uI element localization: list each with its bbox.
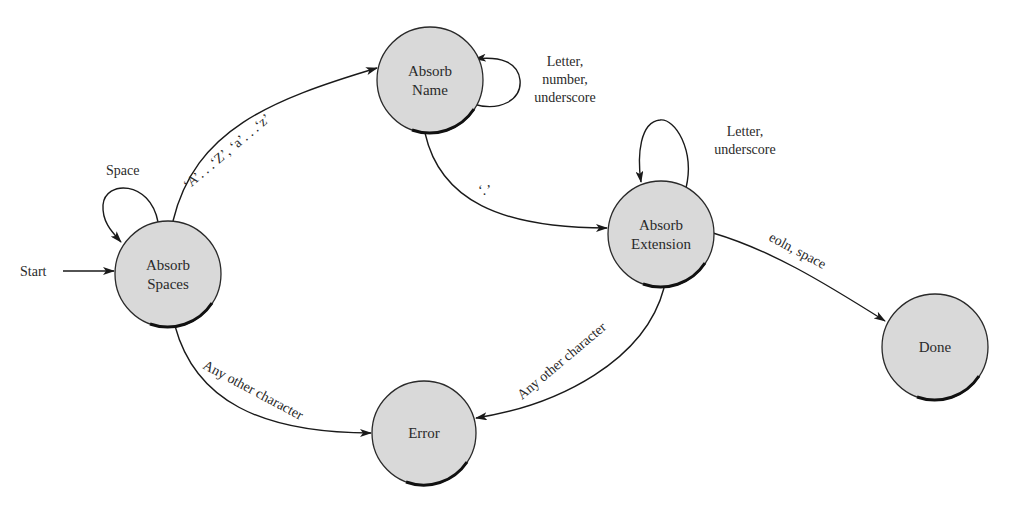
- node-absorb-name-line1: Absorb: [408, 63, 452, 79]
- dot-edge-label: ‘.’: [478, 183, 491, 198]
- edge-spaces-to-error: Any other character: [175, 326, 371, 433]
- edge-extension-to-error: Any other character: [476, 288, 664, 418]
- node-absorb-extension-line2: Extension: [631, 236, 691, 252]
- node-absorb-name-line2: Name: [412, 82, 448, 98]
- edge-spaces-to-name: ‘A’. . .‘Z’, ‘a’. . .‘z’: [173, 68, 377, 221]
- error-edge-left-label: Any other character: [201, 357, 306, 423]
- node-absorb-extension: Absorb Extension: [608, 181, 714, 287]
- ext-loop-label-1: Letter,: [727, 124, 763, 139]
- node-done: Done: [882, 294, 988, 400]
- space-loop-label: Space: [106, 163, 139, 178]
- edge-extension-loop: Letter, underscore: [639, 120, 775, 188]
- start-label: Start: [20, 264, 47, 279]
- node-done-label: Done: [919, 339, 952, 355]
- ext-loop-label-2: underscore: [714, 142, 775, 157]
- node-error-label: Error: [408, 425, 440, 441]
- node-absorb-spaces: Absorb Spaces: [115, 221, 221, 327]
- edge-name-loop: Letter, number, underscore: [473, 54, 596, 107]
- name-loop-label-3: underscore: [534, 90, 595, 105]
- done-edge-label: eoln, space: [767, 229, 829, 271]
- name-loop-label-1: Letter,: [547, 54, 583, 69]
- edge-name-to-extension: ‘.’: [425, 133, 607, 228]
- edge-start: Start: [20, 264, 114, 279]
- node-absorb-name: Absorb Name: [377, 27, 483, 133]
- node-absorb-spaces-line1: Absorb: [146, 257, 190, 273]
- error-edge-right-label: Any other character: [514, 319, 609, 402]
- name-loop-label-2: number,: [542, 72, 588, 87]
- az-edge-label: ‘A’. . .‘Z’, ‘a’. . .‘z’: [180, 111, 273, 192]
- edge-extension-to-done: eoln, space: [713, 229, 885, 321]
- state-diagram: Start Space ‘A’. . .‘Z’, ‘a’. . .‘z’ Let…: [0, 0, 1014, 514]
- node-absorb-spaces-line2: Spaces: [147, 276, 189, 292]
- node-absorb-extension-line1: Absorb: [639, 217, 683, 233]
- node-error: Error: [372, 381, 476, 485]
